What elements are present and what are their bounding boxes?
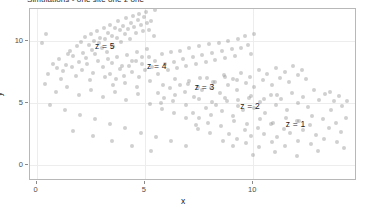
scatter-point	[124, 16, 128, 20]
scatter-point	[178, 83, 182, 87]
scatter-point	[252, 32, 256, 36]
scatter-point	[196, 127, 200, 131]
scatter-point	[66, 52, 70, 56]
cluster-annotation: z = 2	[240, 101, 260, 111]
scatter-point	[54, 90, 58, 94]
scatter-point	[257, 145, 261, 149]
scatter-point	[287, 80, 291, 84]
scatter-point	[257, 68, 261, 72]
scatter-point	[108, 23, 112, 27]
y-axis-title: y	[0, 92, 4, 96]
gridline-horizontal	[30, 165, 355, 166]
scatter-point	[130, 70, 134, 74]
scatter-point	[220, 109, 224, 113]
scatter-point	[206, 121, 210, 125]
scatter-point	[288, 131, 292, 135]
scatter-point	[59, 77, 63, 81]
scatter-point	[101, 95, 105, 99]
scatter-point	[301, 95, 305, 99]
scatter-point	[262, 132, 266, 136]
scatter-point	[233, 54, 237, 58]
scatter-point	[77, 93, 81, 97]
scatter-point	[184, 116, 188, 120]
scatter-point	[127, 64, 131, 68]
scatter-point	[344, 116, 348, 120]
scatter-point	[279, 97, 283, 101]
scatter-point	[51, 62, 55, 66]
scatter-point	[225, 99, 229, 103]
scatter-point	[236, 37, 240, 41]
scatter-point	[219, 124, 223, 128]
scatter-point	[200, 53, 204, 57]
scatter-point	[79, 40, 83, 44]
scatter-point	[71, 129, 75, 133]
scatter-point	[46, 72, 50, 76]
scatter-point	[149, 19, 153, 23]
scatter-point	[263, 111, 267, 115]
cluster-annotation: z = 1	[286, 119, 306, 129]
scatter-point	[115, 55, 119, 59]
scatter-point	[204, 60, 208, 64]
scatter-point	[334, 121, 338, 125]
scatter-point	[300, 68, 304, 72]
scatter-point	[154, 135, 158, 139]
scatter-point	[317, 98, 321, 102]
scatter-point	[306, 105, 310, 109]
scatter-point	[265, 72, 269, 76]
scatter-point	[342, 146, 346, 150]
scatter-point	[247, 96, 251, 100]
scatter-point	[207, 42, 211, 46]
scatter-point	[227, 132, 231, 136]
scatter-point	[169, 50, 173, 54]
scatter-point	[161, 83, 165, 87]
scatter-point	[321, 117, 325, 121]
scatter-point	[261, 78, 265, 82]
scatter-point	[137, 75, 141, 79]
scatter-point	[214, 103, 218, 107]
scatter-point	[156, 91, 160, 95]
scatter-point	[210, 51, 214, 55]
scatter-point	[278, 76, 282, 80]
scatter-point	[124, 98, 128, 102]
scatter-point	[80, 68, 84, 72]
scatter-point	[243, 128, 247, 132]
scatter-point	[141, 29, 145, 33]
scatter-point	[304, 77, 308, 81]
scatter-point	[274, 103, 278, 107]
scatter-point	[89, 88, 93, 92]
scatter-point	[270, 83, 274, 87]
scatter-plot-figure: Simulations - one site one z one z = 5z …	[0, 0, 366, 210]
scatter-point	[244, 81, 248, 85]
scatter-point	[118, 67, 122, 71]
y-axis-tick	[25, 164, 28, 165]
scatter-point	[197, 97, 201, 101]
scatter-point	[340, 104, 344, 108]
scatter-point	[296, 101, 300, 105]
x-axis-tick-label: 10	[248, 185, 256, 194]
scatter-point	[71, 54, 75, 58]
scatter-point	[96, 59, 100, 63]
cluster-annotation: z = 5	[95, 41, 115, 51]
scatter-point	[244, 141, 248, 145]
scatter-point	[110, 61, 114, 65]
scatter-point	[309, 142, 313, 146]
chart-title-text: Simulations - one site one z one	[27, 0, 257, 5]
y-axis-tick	[25, 102, 28, 103]
scatter-point	[135, 85, 139, 89]
scatter-point	[262, 97, 266, 101]
y-axis-tick-label: 0	[10, 160, 23, 169]
scatter-point	[323, 92, 327, 96]
scatter-point	[252, 85, 256, 89]
scatter-point	[95, 29, 99, 33]
scatter-point	[140, 62, 144, 66]
scatter-point	[123, 32, 127, 36]
scatter-point	[125, 53, 129, 57]
scatter-point	[160, 52, 164, 56]
scatter-point	[310, 114, 314, 118]
x-axis-tick-label: 0	[33, 185, 37, 194]
y-axis-tick-label: 10	[10, 36, 23, 45]
scatter-point	[119, 40, 123, 44]
scatter-point	[89, 32, 93, 36]
scatter-point	[114, 77, 118, 81]
scatter-point	[77, 60, 81, 64]
